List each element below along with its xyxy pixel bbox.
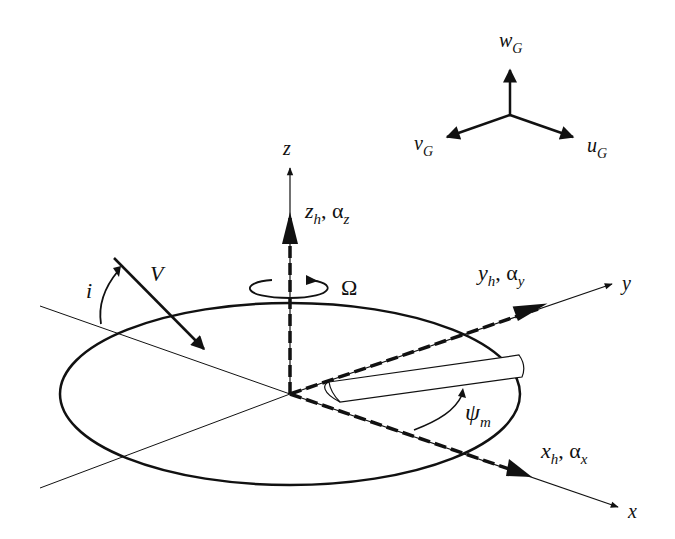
u-gust-arrow	[510, 115, 573, 137]
z-hub-arrowhead	[282, 212, 298, 244]
inclination-label: i	[86, 278, 92, 303]
x-hub-arrowhead	[506, 459, 532, 477]
z-hub-label: zh, αz	[304, 198, 350, 227]
azimuth-label: ψm	[465, 399, 491, 430]
v-gust-label: vG	[414, 132, 433, 159]
inclination-arc	[100, 271, 118, 324]
rotor-blade	[325, 355, 524, 402]
reference-line-upper	[40, 306, 290, 394]
rotor-diagram: wG vG uG z y x zh, αz yh, αy xh, αx Ω V …	[0, 0, 675, 539]
w-gust-label: wG	[499, 29, 522, 56]
gust-axes: wG vG uG	[414, 29, 607, 161]
x-hub-label: xh, αx	[540, 438, 588, 467]
y-axis-label: y	[620, 272, 631, 295]
omega-label: Ω	[341, 275, 357, 300]
y-hub-label: yh, αy	[476, 260, 525, 289]
v-gust-arrow	[447, 115, 510, 137]
x-hub-axis	[290, 394, 518, 472]
azimuth-arrowhead	[458, 388, 466, 398]
x-axis-label: x	[627, 500, 637, 522]
azimuth-arc	[414, 395, 462, 430]
y-hub-arrowhead	[513, 303, 549, 321]
rotation-arrowhead	[306, 275, 318, 285]
reference-line-lower	[40, 394, 290, 488]
rotation-indicator: Ω	[250, 275, 357, 300]
z-axis-label: z	[282, 137, 291, 159]
u-gust-label: uG	[587, 134, 607, 161]
velocity-label: V	[150, 261, 166, 286]
